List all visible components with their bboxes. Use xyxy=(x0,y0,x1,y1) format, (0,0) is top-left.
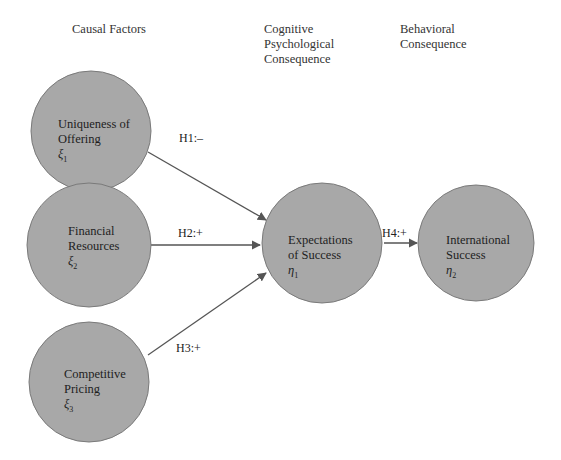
subscript: 1 xyxy=(63,155,67,164)
edge-label-h2: H2:+ xyxy=(178,226,203,241)
eta-symbol: η2 xyxy=(446,263,510,283)
label-line: International xyxy=(446,233,510,248)
edge-label-h1: H1:– xyxy=(179,131,203,146)
subscript: 1 xyxy=(294,271,298,280)
label-text: Success xyxy=(446,248,486,262)
label-uniqueness-of-offering: Uniqueness of Offering ξ1 xyxy=(58,117,130,167)
xi-symbol: ξ3 xyxy=(64,397,126,417)
xi-symbol: ξ1 xyxy=(58,147,130,167)
label-text: Offering xyxy=(58,132,101,146)
label-line: Resources xyxy=(68,239,119,254)
edge-label-h3: H3:+ xyxy=(176,341,201,356)
label-line: Competitive xyxy=(64,367,126,382)
label-financial-resources: Financial Resources ξ2 xyxy=(68,224,119,274)
label-line: Offering ξ1 xyxy=(58,132,130,167)
edge-label-h4: H4:+ xyxy=(382,226,407,241)
eta-symbol: η1 xyxy=(288,263,353,283)
subscript: 3 xyxy=(69,405,73,414)
label-text: Pricing xyxy=(64,382,100,396)
label-line: Uniqueness of xyxy=(58,117,130,132)
xi-symbol: ξ2 xyxy=(68,254,119,274)
edge-h3 xyxy=(148,273,266,355)
label-line: Expectations xyxy=(288,233,353,248)
label-line: of Success η1 xyxy=(288,248,353,283)
subscript: 2 xyxy=(452,271,456,280)
label-expectations-of-success: Expectations of Success η1 xyxy=(288,233,353,283)
label-line: Success η2 xyxy=(446,248,510,283)
label-text: of Success xyxy=(288,248,341,262)
label-international-success: International Success η2 xyxy=(446,233,510,283)
edge-h1 xyxy=(148,152,266,220)
label-line: Pricing ξ3 xyxy=(64,382,126,417)
label-line: Financial xyxy=(68,224,119,239)
subscript: 2 xyxy=(73,262,77,271)
label-competitive-pricing: Competitive Pricing ξ3 xyxy=(64,367,126,417)
